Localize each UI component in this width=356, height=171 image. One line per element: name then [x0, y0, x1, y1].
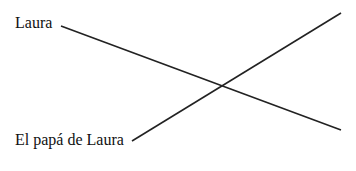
line-from-laura	[61, 26, 341, 130]
line-from-papa	[132, 13, 341, 141]
crossing-lines-diagram	[0, 0, 356, 171]
